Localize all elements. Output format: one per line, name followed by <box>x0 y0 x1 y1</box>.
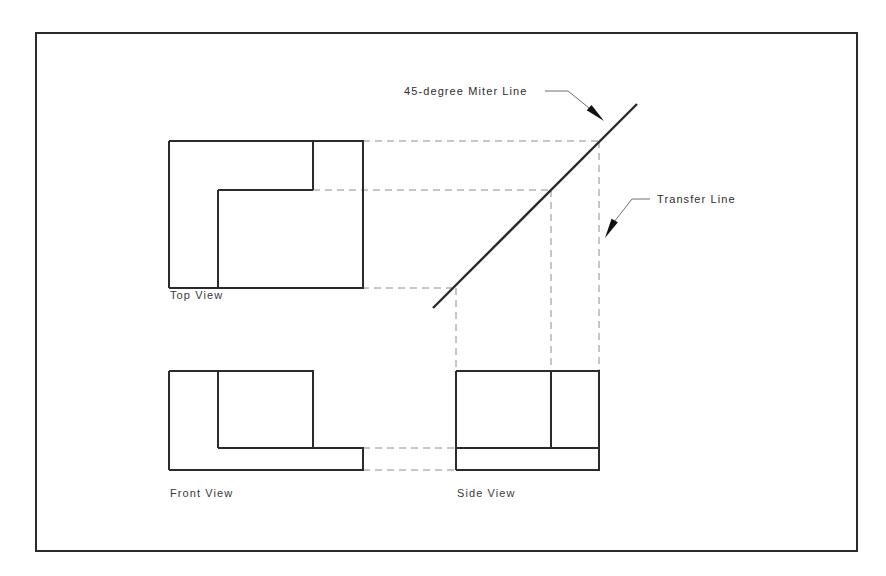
front-view-label: Front View <box>170 487 233 499</box>
miter-annotation-text: 45-degree Miter Line <box>404 85 528 97</box>
transfer-annotation-text: Transfer Line <box>657 193 736 205</box>
technical-drawing-canvas: 45-degree Miter LineTransfer Line Top Vi… <box>0 0 886 576</box>
top-view-label: Top View <box>170 289 223 301</box>
orthographic-projection-drawing: 45-degree Miter LineTransfer Line Top Vi… <box>0 0 886 576</box>
side-view-label: Side View <box>457 487 516 499</box>
